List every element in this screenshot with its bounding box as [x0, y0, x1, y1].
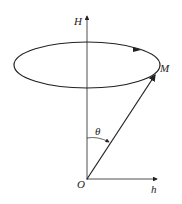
theta-arc: [87, 138, 109, 143]
precession-diagram: H h M θ O: [0, 0, 182, 204]
label-theta: θ: [95, 125, 101, 137]
label-O: O: [77, 178, 85, 190]
label-h: h: [151, 183, 157, 195]
label-M: M: [159, 62, 170, 74]
label-H: H: [73, 15, 83, 27]
